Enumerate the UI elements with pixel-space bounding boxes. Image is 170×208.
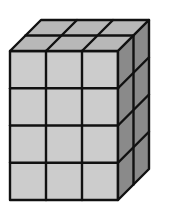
cube-diagram (0, 0, 170, 208)
cube-prism-figure (0, 0, 170, 208)
